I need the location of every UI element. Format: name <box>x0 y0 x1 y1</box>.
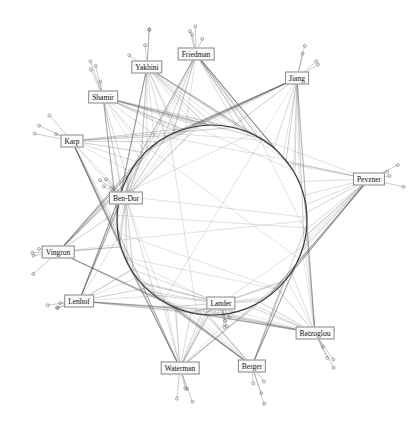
node-label-lenhof: Lenhof <box>64 295 94 308</box>
node-label-vingron: Vingron <box>42 246 75 259</box>
node-label-friedman: Friedman <box>178 48 215 61</box>
node-label-waterman: Waterman <box>161 362 200 375</box>
node-label-batzoglou: Batzoglou <box>296 327 335 340</box>
node-label-jiang: Jiang <box>285 72 309 85</box>
network-edges <box>0 0 412 425</box>
node-label-ben-dor: Ben-Dor <box>109 192 143 205</box>
node-label-shamir: Shamir <box>88 91 118 104</box>
node-label-yakhini: Yakhini <box>131 61 162 74</box>
node-label-karp: Karp <box>61 135 84 148</box>
node-label-berger: Berger <box>238 360 266 373</box>
node-label-lander: Lander <box>206 297 235 310</box>
network-diagram: FriedmanYakhiniJiangShamirKarpPevznerBen… <box>0 0 412 425</box>
node-label-pevzner: Pevzner <box>353 173 385 186</box>
